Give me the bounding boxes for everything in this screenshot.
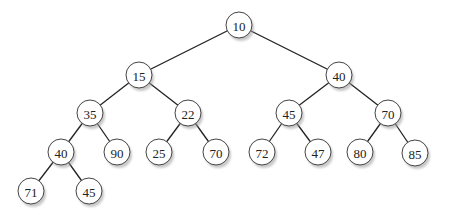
node-label: 90 [111,146,124,161]
tree-node: 47 [305,139,333,168]
node-label: 70 [210,146,223,161]
tree-node: 45 [76,178,104,207]
tree-node: 72 [249,139,277,168]
tree-node: 15 [126,62,154,91]
tree-node: 85 [402,140,430,169]
node-label: 80 [354,146,367,161]
tree-node: 25 [146,139,174,168]
tree-node: 70 [203,139,231,168]
node-label: 45 [283,107,296,122]
node-label: 71 [25,185,38,200]
node-label: 25 [153,146,166,161]
node-label: 45 [83,185,96,200]
node-label: 15 [133,69,146,84]
tree-node: 10 [226,12,254,41]
tree-node: 40 [326,62,354,91]
tree-edge [239,25,339,75]
tree-edge [139,25,239,75]
node-label: 72 [256,146,269,161]
node-label: 47 [312,146,326,161]
node-label: 40 [55,146,68,161]
node-label: 10 [233,19,246,34]
tree-node: 90 [104,139,132,168]
node-label: 40 [333,69,346,84]
node-label: 70 [382,107,395,122]
node-label: 35 [84,107,97,122]
tree-node: 71 [18,178,46,207]
binary-tree-diagram: 1015403522457040902570724780857145 [0,0,453,217]
tree-node: 80 [347,139,375,168]
node-label: 22 [182,107,195,122]
node-label: 85 [409,147,422,162]
